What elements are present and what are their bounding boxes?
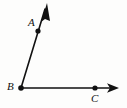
point-b-dot (18, 85, 24, 91)
arrowhead-a-icon (41, 3, 50, 22)
angle-diagram-figure: A B C (0, 0, 127, 108)
point-label-b: B (7, 81, 14, 92)
point-c-dot (92, 85, 97, 90)
point-a-dot (35, 28, 40, 33)
angle-diagram-canvas (0, 0, 127, 108)
point-label-c: C (91, 93, 98, 104)
point-label-a: A (28, 17, 35, 28)
